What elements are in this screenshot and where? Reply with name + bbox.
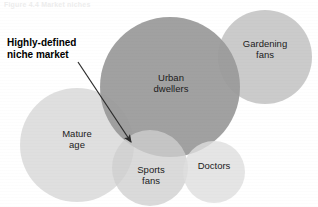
circle-doctors[interactable] (183, 141, 245, 203)
annotation-niche-label: Highly-defined niche market (7, 37, 117, 61)
venn-canvas (0, 0, 318, 207)
venn-diagram-figure: Figure 4.4 Market niches Highly-defined … (0, 0, 318, 207)
circle-sports-fans[interactable] (112, 130, 188, 206)
